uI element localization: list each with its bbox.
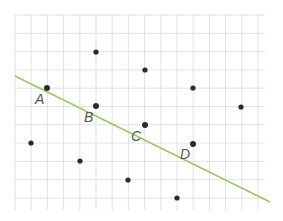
point-b: [93, 103, 99, 109]
point: [93, 49, 98, 54]
point: [77, 158, 82, 163]
point: [238, 104, 243, 109]
label-d: D: [180, 146, 190, 162]
point-c: [142, 122, 148, 128]
label-b: B: [84, 109, 93, 125]
label-a: A: [34, 91, 44, 107]
point-a: [44, 85, 50, 91]
point: [28, 140, 33, 145]
point: [190, 85, 195, 90]
point: [174, 195, 179, 200]
grid-diagram: ABCD: [0, 0, 283, 221]
point: [142, 67, 147, 72]
line-through-points: [15, 76, 270, 202]
point: [125, 177, 130, 182]
label-c: C: [131, 128, 142, 144]
point-d: [190, 141, 196, 147]
